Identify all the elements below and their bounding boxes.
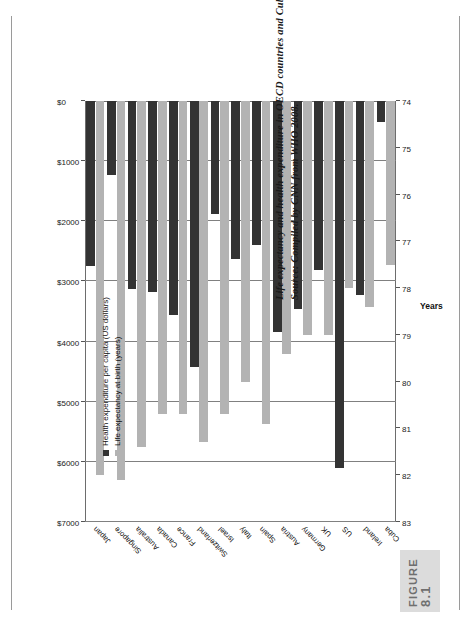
tick-label-years: 80 <box>402 379 411 388</box>
tick-label-years: 78 <box>402 285 411 294</box>
legend-label-money: Health expenditure per capita (US dollar… <box>101 297 110 446</box>
tick-mark-years <box>396 287 400 288</box>
bar-life-expectancy <box>199 101 208 442</box>
gridline-money <box>85 461 396 462</box>
tick-mark-years <box>396 427 400 428</box>
bar-health-expenditure <box>376 101 385 122</box>
tick-label-money: $4000 <box>57 339 79 348</box>
tick-label-money: $7000 <box>57 519 79 528</box>
legend-swatch-money-icon <box>102 450 108 456</box>
tick-label-money: $5000 <box>57 399 79 408</box>
gridline-money <box>85 401 396 402</box>
bar-life-expectancy <box>137 101 146 447</box>
caption-line-1: Life expectancy and health expenditure i… <box>272 0 287 300</box>
tick-label-years: 75 <box>402 145 411 154</box>
tick-mark-years <box>396 100 400 101</box>
tick-mark-money <box>81 521 85 522</box>
tick-mark-money <box>81 100 85 101</box>
bar-life-expectancy <box>261 101 270 424</box>
tick-mark-money <box>81 461 85 462</box>
bar-health-expenditure <box>86 101 95 266</box>
bar-life-expectancy <box>220 101 229 414</box>
tick-mark-years <box>396 474 400 475</box>
tick-mark-money <box>81 341 85 342</box>
chart-legend: Health expenditure per capita (US dollar… <box>101 297 125 456</box>
bar-life-expectancy <box>365 101 374 307</box>
tick-label-money: $1000 <box>57 158 79 167</box>
tick-mark-money <box>81 160 85 161</box>
legend-item-money: Health expenditure per capita (US dollar… <box>101 297 110 456</box>
bar-health-expenditure <box>169 101 178 315</box>
tick-mark-years <box>396 194 400 195</box>
tick-label-money: $3000 <box>57 278 79 287</box>
figure-page: $0$1000$2000$3000$4000$5000$6000$7000747… <box>0 0 469 626</box>
bar-life-expectancy <box>157 101 166 414</box>
tick-label-years: 81 <box>402 425 411 434</box>
legend-item-years: Life expectancy at birth (years) <box>113 297 122 456</box>
bar-health-expenditure <box>314 101 323 270</box>
bar-health-expenditure <box>106 101 115 175</box>
bar-health-expenditure <box>148 101 157 292</box>
gridline-money <box>85 521 396 522</box>
bar-life-expectancy <box>240 101 249 382</box>
figure-caption: Life expectancy and health expenditure i… <box>272 0 302 300</box>
figure-badge-number: 8.1 <box>419 585 433 607</box>
tick-mark-years <box>396 381 400 382</box>
legend-label-years: Life expectancy at birth (years) <box>113 337 122 446</box>
figure-number-badge: FIGURE 8.1 <box>400 550 440 612</box>
bar-health-expenditure <box>210 101 219 214</box>
rotated-figure-wrapper: $0$1000$2000$3000$4000$5000$6000$7000747… <box>0 0 469 626</box>
tick-label-years: 79 <box>402 332 411 341</box>
tick-mark-money <box>81 280 85 281</box>
tick-label-years: 77 <box>402 238 411 247</box>
tick-mark-years <box>396 240 400 241</box>
tick-mark-years <box>396 147 400 148</box>
bar-life-expectancy <box>303 101 312 335</box>
tick-mark-money <box>81 401 85 402</box>
bar-chart: $0$1000$2000$3000$4000$5000$6000$7000747… <box>59 30 411 596</box>
bar-health-expenditure <box>252 101 261 245</box>
bar-life-expectancy <box>178 101 187 414</box>
bar-health-expenditure <box>189 101 198 367</box>
tick-mark-years <box>396 521 400 522</box>
legend-swatch-years-icon <box>114 450 120 456</box>
tick-label-money: $6000 <box>57 459 79 468</box>
tick-label-money: $0 <box>57 98 66 107</box>
bar-health-expenditure <box>335 101 344 468</box>
bar-health-expenditure <box>127 101 136 289</box>
bar-health-expenditure <box>231 101 240 259</box>
tick-label-years: 74 <box>402 98 411 107</box>
tick-label-money: $2000 <box>57 218 79 227</box>
caption-line-2: Source: Compiled by CNN from WHO 2008. <box>287 0 302 300</box>
axis-title-years: Years <box>420 302 443 312</box>
bar-life-expectancy <box>344 101 353 288</box>
tick-label-years: 83 <box>402 519 411 528</box>
tick-label-years: 82 <box>402 472 411 481</box>
tick-mark-money <box>81 220 85 221</box>
tick-label-years: 76 <box>402 192 411 201</box>
bar-life-expectancy <box>323 101 332 335</box>
bar-life-expectancy <box>386 101 395 265</box>
tick-mark-years <box>396 334 400 335</box>
bar-health-expenditure <box>355 101 364 295</box>
